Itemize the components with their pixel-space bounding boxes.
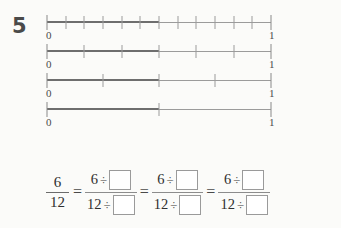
tick-11	[252, 16, 253, 29]
denominator-value: 12	[87, 197, 102, 212]
tick-4	[271, 73, 272, 88]
tick-0	[47, 44, 48, 59]
tick-3	[215, 74, 216, 87]
tick-5	[140, 16, 141, 29]
tick-3	[103, 16, 104, 29]
tick-10	[233, 16, 234, 29]
equivalent-fraction-equation: 6 12 = 6 ÷ 12 ÷ = 6 ÷	[46, 160, 270, 224]
shaded-segment	[47, 50, 159, 52]
tick-7	[177, 16, 178, 29]
fraction-division-term-1: 6 ÷ 12 ÷	[85, 168, 137, 217]
tick-1	[84, 45, 85, 58]
fraction-division-term-3: 6 ÷ 12 ÷	[218, 168, 270, 217]
answer-box-denominator-2[interactable]	[179, 195, 201, 215]
shaded-segment	[47, 108, 159, 110]
number-line-twelfths: 0 1	[47, 15, 271, 43]
equals-sign-1: =	[70, 184, 85, 200]
tick-3	[159, 45, 160, 58]
answer-box-denominator-3[interactable]	[246, 195, 268, 215]
answer-box-denominator-1[interactable]	[113, 195, 135, 215]
worksheet-page: 5 0 1	[0, 0, 341, 228]
number-line-end-label: 1	[269, 59, 275, 70]
number-line-start-label: 0	[46, 117, 52, 128]
numerator-value: 6	[157, 172, 164, 187]
tick-2	[159, 74, 160, 87]
denominator-value: 12	[220, 197, 235, 212]
tick-5	[233, 45, 234, 58]
number-line-start-label: 0	[46, 59, 52, 70]
tick-0	[47, 73, 48, 88]
number-line-fourths: 0 1	[47, 73, 271, 101]
tick-9	[215, 16, 216, 29]
tick-1	[103, 74, 104, 87]
equals-sign-3: =	[203, 184, 218, 200]
tick-4	[121, 16, 122, 29]
division-icon: ÷	[99, 173, 108, 186]
fraction-numerator: 6 ÷	[155, 168, 199, 192]
number-line-start-label: 0	[46, 88, 52, 99]
division-icon: ÷	[236, 198, 245, 211]
numerator-value: 6	[91, 172, 98, 187]
number-line-start-label: 0	[46, 30, 52, 41]
fraction-numerator: 6 ÷	[222, 168, 266, 192]
answer-box-numerator-2[interactable]	[176, 170, 198, 190]
division-icon: ÷	[166, 173, 175, 186]
number-line-group: 0 1 0 1 0 1	[0, 0, 341, 150]
fraction-denominator: 12 ÷	[85, 193, 137, 217]
number-line-end-label: 1	[269, 30, 275, 41]
tick-2	[271, 102, 272, 117]
fraction-division-term-2: 6 ÷ 12 ÷	[152, 168, 204, 217]
division-icon: ÷	[103, 198, 112, 211]
tick-12	[271, 15, 272, 30]
tick-1	[159, 103, 160, 116]
tick-6	[271, 44, 272, 59]
number-line-sixths: 0 1	[47, 44, 271, 72]
tick-2	[84, 16, 85, 29]
fraction-denominator: 12 ÷	[152, 193, 204, 217]
answer-box-numerator-1[interactable]	[109, 170, 131, 190]
denominator-value: 12	[154, 197, 169, 212]
number-line-halves: 0 1	[47, 102, 271, 130]
tick-0	[47, 15, 48, 30]
fraction-denominator: 12	[46, 193, 69, 212]
division-icon: ÷	[232, 173, 241, 186]
tick-0	[47, 102, 48, 117]
tick-1	[65, 16, 66, 29]
tick-4	[196, 45, 197, 58]
tick-8	[196, 16, 197, 29]
numerator-value: 6	[224, 172, 231, 187]
fraction-six-twelfths: 6 12	[46, 173, 69, 212]
answer-box-numerator-3[interactable]	[242, 170, 264, 190]
number-line-end-label: 1	[269, 88, 275, 99]
division-icon: ÷	[169, 198, 178, 211]
number-line-end-label: 1	[269, 117, 275, 128]
fraction-numerator: 6 ÷	[89, 168, 133, 192]
fraction-numerator: 6	[50, 173, 66, 192]
tick-2	[121, 45, 122, 58]
tick-6	[159, 16, 160, 29]
fraction-denominator: 12 ÷	[218, 193, 270, 217]
equals-sign-2: =	[137, 184, 152, 200]
